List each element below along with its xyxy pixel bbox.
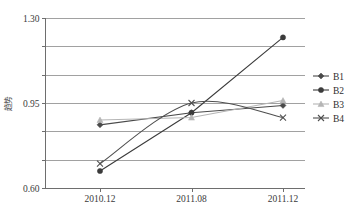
legend-item-B3[interactable]: B3 bbox=[313, 100, 344, 110]
y-tick-label: 0.60 bbox=[23, 184, 40, 194]
legend-label-B1: B1 bbox=[333, 72, 344, 82]
y-axis-title: 趋势 bbox=[3, 96, 13, 111]
x-axis-tick-labels: 2010.122011.082011.12 bbox=[85, 194, 299, 204]
legend-item-B2[interactable]: B2 bbox=[313, 86, 344, 96]
legend-label-B3: B3 bbox=[333, 100, 344, 110]
chart-canvas: 0.600.951.30 2010.122011.082011.12 趋势 B1… bbox=[0, 0, 358, 215]
series-lines bbox=[97, 35, 286, 174]
legend-item-B4[interactable]: B4 bbox=[313, 114, 344, 124]
series-B2 bbox=[97, 35, 285, 174]
x-tick-label: 2011.12 bbox=[268, 194, 299, 204]
data-point-marker-B4-0 bbox=[97, 161, 103, 167]
x-axis-ticks bbox=[42, 19, 284, 193]
data-point-marker-B2-0 bbox=[97, 168, 102, 173]
data-point-marker-legend-B2 bbox=[318, 87, 323, 92]
x-tick-label: 2010.12 bbox=[85, 194, 116, 204]
x-tick-label: 2011.08 bbox=[176, 194, 207, 204]
legend: B1B2B3B4 bbox=[313, 72, 344, 124]
series-path-B2 bbox=[100, 37, 283, 171]
line-chart: 0.600.951.30 2010.122011.082011.12 趋势 B1… bbox=[0, 0, 358, 215]
data-point-marker-legend-B1 bbox=[318, 73, 324, 79]
legend-item-B1[interactable]: B1 bbox=[313, 72, 344, 82]
y-axis-tick-labels: 0.600.951.30 bbox=[23, 14, 40, 194]
y-tick-label: 0.95 bbox=[23, 99, 40, 109]
data-point-marker-B3-2 bbox=[280, 98, 286, 104]
data-point-marker-B2-2 bbox=[280, 35, 285, 40]
y-tick-label: 1.30 bbox=[23, 14, 40, 24]
legend-label-B4: B4 bbox=[333, 114, 344, 124]
legend-label-B2: B2 bbox=[333, 86, 344, 96]
